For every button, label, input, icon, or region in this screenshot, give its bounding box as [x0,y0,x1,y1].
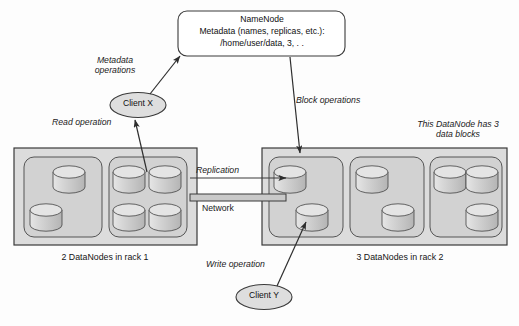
this-datanode-line2: data blocks [408,129,508,139]
namenode-path-line: /home/user/data, 3, . . [182,38,342,50]
block-operations-label: Block operations [296,95,360,105]
metadata-operations-line2: operations [78,65,152,75]
rack1-datanode-1 [24,157,102,237]
network-bar [190,194,286,201]
namenode-metadata-line: Metadata (names, replicas, etc.): [182,26,342,38]
rack-1-caption: 2 DataNodes in rack 1 [12,252,198,262]
rack-2-caption: 3 DataNodes in rack 2 [300,252,500,262]
rack2-datanode-2 [350,157,424,237]
replication-label: Replication [196,165,239,175]
rack2-datanode-3 [430,157,502,237]
this-datanode-line1: This DataNode has 3 [408,119,508,129]
hdfs-architecture-diagram: NameNode Metadata (names, replicas, etc.… [0,0,519,326]
client-x-label: Client X [110,98,166,108]
this-datanode-label: This DataNode has 3 data blocks [408,119,508,140]
namenode-title: NameNode [182,14,342,26]
namenode-label: NameNode Metadata (names, replicas, etc.… [182,14,342,50]
network-label: Network [202,203,234,213]
read-operation-label: Read operation [52,117,111,127]
metadata-operations-label: Metadata operations [78,55,152,76]
rack-2 [262,148,507,245]
metadata-operations-arrow [150,56,180,94]
write-operation-label: Write operation [206,259,265,269]
metadata-operations-line1: Metadata [78,55,152,65]
rack1-datanode-2 [109,157,187,237]
rack-1 [14,148,197,245]
client-y-label: Client Y [236,290,292,300]
